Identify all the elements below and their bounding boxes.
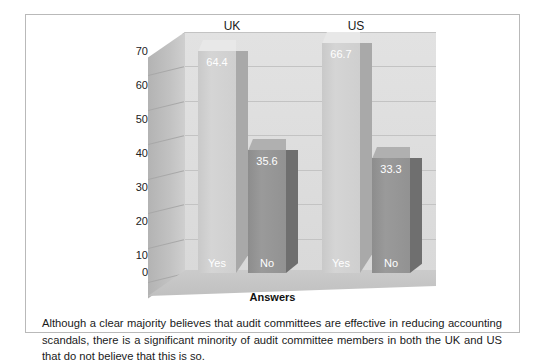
- bar-side-face: [410, 158, 422, 273]
- bar-side-face: [360, 43, 372, 273]
- figure-caption: Although a clear majority believes that …: [42, 315, 502, 364]
- y-axis: % 70 60 50 40 30 20 10 0: [104, 15, 148, 287]
- bar-front-face: [322, 43, 360, 273]
- group-label-uk: UK: [192, 20, 272, 32]
- bar-uk-yes[interactable]: 64.4 Yes: [198, 51, 236, 273]
- side-gridline-60: [148, 66, 184, 76]
- y-tick-70: 70: [136, 46, 148, 57]
- bar-category-label: Yes: [322, 258, 360, 269]
- side-gridline-40: [148, 135, 184, 145]
- x-axis-title: Answers: [26, 291, 519, 303]
- y-tick-50: 50: [136, 114, 148, 125]
- bar-uk-no[interactable]: 35.6 No: [248, 150, 286, 273]
- side-gridline-50: [148, 101, 184, 111]
- bar-category-label: Yes: [198, 258, 236, 269]
- y-tick-30: 30: [136, 182, 148, 193]
- side-wall: [148, 32, 185, 314]
- side-gridline-20: [148, 204, 184, 214]
- bar-value-label: 35.6: [248, 156, 286, 167]
- y-tick-60: 60: [136, 80, 148, 91]
- bar-value-label: 64.4: [198, 57, 236, 68]
- y-tick-40: 40: [136, 148, 148, 159]
- bar-chart: % 70 60 50 40 30 20 10 0: [26, 15, 519, 287]
- gridline-70: [184, 32, 436, 33]
- bar-value-label: 33.3: [372, 164, 410, 175]
- figure-frame: % 70 60 50 40 30 20 10 0: [25, 14, 520, 333]
- bar-value-label: 66.7: [322, 49, 360, 60]
- bar-front-face: [372, 158, 410, 273]
- bar-side-face: [236, 51, 248, 273]
- bar-category-label: No: [248, 258, 286, 269]
- bar-front-face: [248, 150, 286, 273]
- bar-us-no[interactable]: 33.3 No: [372, 158, 410, 273]
- plot-area: UK US 64.4 Yes 35.6 No: [148, 20, 436, 286]
- y-tick-20: 20: [136, 216, 148, 227]
- side-gridline-10: [148, 239, 184, 249]
- bar-side-face: [286, 150, 298, 273]
- group-label-us: US: [316, 20, 396, 32]
- bar-us-yes[interactable]: 66.7 Yes: [322, 43, 360, 273]
- bar-category-label: No: [372, 258, 410, 269]
- side-gridline-30: [148, 170, 184, 180]
- side-gridline-70: [148, 32, 184, 42]
- y-tick-10: 10: [136, 250, 148, 261]
- bar-front-face: [198, 51, 236, 273]
